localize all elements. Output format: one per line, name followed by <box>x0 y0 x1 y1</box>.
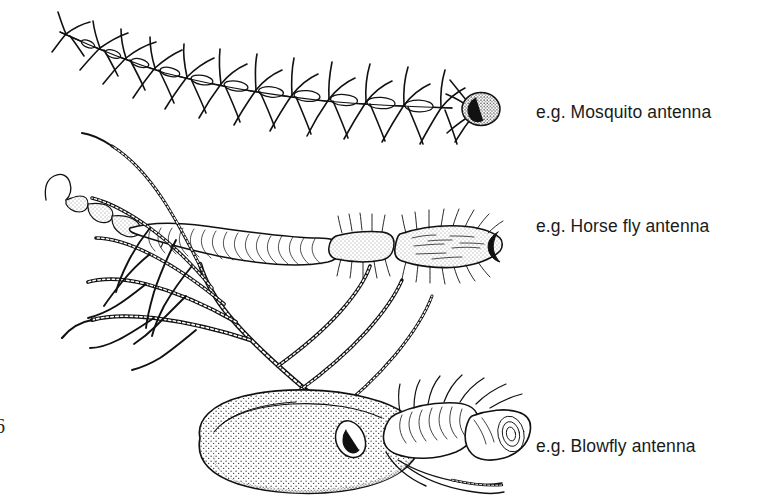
horse-fly-antenna-drawing <box>45 174 503 284</box>
figure-page: e.g. Mosquito antenna e.g. Horse fly ant… <box>0 0 762 503</box>
label-horse-fly-antenna: e.g. Horse fly antenna <box>536 218 709 236</box>
label-mosquito-antenna: e.g. Mosquito antenna <box>536 104 711 122</box>
page-number: 6 <box>0 415 5 438</box>
blowfly-antenna-drawing <box>62 133 531 493</box>
label-blowfly-antenna: e.g. Blowfly antenna <box>536 438 696 456</box>
mosquito-antenna-drawing <box>52 12 500 144</box>
antennae-illustration <box>0 0 762 503</box>
